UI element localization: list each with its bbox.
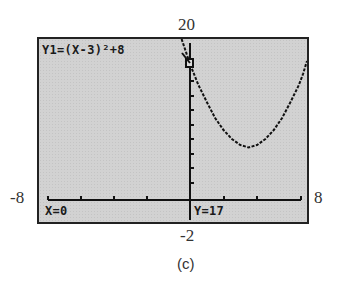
cursor-y-readout: Y=17 xyxy=(194,205,224,217)
trace-cursor xyxy=(182,53,193,67)
parabola-curve xyxy=(182,39,307,148)
ymax-label: 20 xyxy=(178,16,195,33)
xmax-label: 8 xyxy=(314,189,323,206)
equation-label: Y1=(X-3)²+8 xyxy=(42,44,125,56)
xmin-label: -8 xyxy=(10,189,24,206)
cursor-x-readout: X=0 xyxy=(45,205,68,217)
ymin-label: -2 xyxy=(180,227,194,244)
graph-plot xyxy=(39,39,307,222)
figure-caption: (c) xyxy=(177,255,195,272)
calculator-screen: Y1=(X-3)²+8 X=0 Y=17 xyxy=(37,37,309,224)
